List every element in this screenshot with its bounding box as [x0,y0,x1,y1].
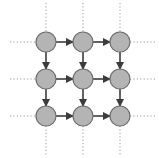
node-r0-c1 [73,32,93,52]
node-r2-c0 [36,106,56,126]
node-r0-c2 [110,32,130,52]
node-r1-c2 [110,69,130,89]
node-r1-c0 [36,69,56,89]
node-r2-c1 [73,106,93,126]
grid-graph-svg [0,0,159,158]
node-r1-c1 [73,69,93,89]
node-r0-c0 [36,32,56,52]
graph-nodes [36,32,130,126]
node-r2-c2 [110,106,130,126]
grid-graph-diagram [0,0,159,158]
